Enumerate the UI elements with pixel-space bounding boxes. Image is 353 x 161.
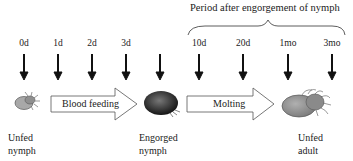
timepoint-label-3mo: 3mo	[317, 38, 347, 48]
timepoint-label-1d: 1d	[43, 38, 73, 48]
unfed-nymph-icon	[15, 92, 40, 110]
timepoint-label-3d: 3d	[111, 38, 141, 48]
molting-label: Molting	[213, 98, 245, 109]
unfed-adult-icon	[282, 90, 331, 118]
timepoint-label-1mo: 1mo	[273, 38, 303, 48]
stage-unfed-nymph: Unfed nymph	[8, 131, 36, 157]
timepoint-label-10d: 10d	[184, 38, 214, 48]
engorged-nymph-icon	[144, 91, 180, 117]
timepoint-label-0d: 0d	[9, 38, 39, 48]
brace	[188, 20, 345, 35]
timepoint-arrows	[20, 54, 336, 80]
stage-unfed-adult: Unfed adult	[298, 131, 323, 157]
stage-engorged-nymph: Engorged nymph	[139, 131, 178, 157]
timepoint-label-2d: 2d	[77, 38, 107, 48]
timepoint-label-20d: 20d	[228, 38, 258, 48]
blood-feeding-label: Blood feeding	[62, 98, 119, 109]
